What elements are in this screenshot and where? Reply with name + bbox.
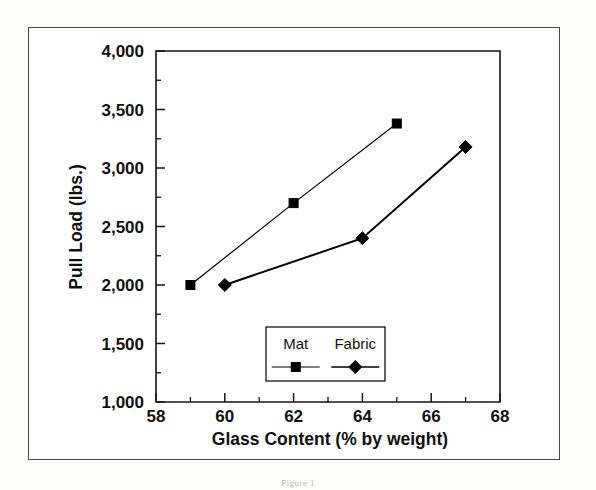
x-tick-label: 64: [353, 407, 372, 426]
figure-area: 1,0001,5002,0002,5003,0003,5004,000 5860…: [0, 0, 596, 490]
page-background: 1,0001,5002,0002,5003,0003,5004,000 5860…: [0, 0, 596, 490]
marker-square: [289, 199, 298, 208]
y-tick-label: 1,500: [101, 335, 144, 354]
y-tick-label: 4,000: [101, 42, 144, 61]
y-tick-label: 2,000: [101, 276, 144, 295]
x-tick-label: 62: [284, 407, 303, 426]
legend-label-mat: Mat: [283, 335, 309, 352]
y-axis-major-ticks: [156, 51, 165, 402]
y-tick-label: 1,000: [101, 393, 144, 412]
y-axis-title: Pull Load (lbs.): [66, 164, 86, 289]
series-mat: [186, 119, 401, 289]
y-tick-label: 2,500: [101, 218, 144, 237]
x-axis-title: Glass Content (% by weight): [212, 429, 448, 449]
series-line-fabric: [225, 147, 466, 285]
marker-square: [186, 281, 195, 290]
legend-label-fabric: Fabric: [334, 335, 376, 352]
marker-square: [291, 363, 300, 372]
x-tick-label: 66: [422, 407, 441, 426]
y-axis-tick-labels: 1,0001,5002,0002,5003,0003,5004,000: [101, 42, 144, 412]
x-tick-label: 68: [491, 407, 510, 426]
marker-square: [392, 119, 401, 128]
pull-load-vs-glass-content-chart: 1,0001,5002,0002,5003,0003,5004,000 5860…: [0, 0, 596, 490]
x-axis-tick-labels: 586062646668: [147, 407, 510, 426]
y-tick-label: 3,000: [101, 159, 144, 178]
chart-legend: MatFabric: [266, 327, 385, 381]
marker-diamond: [218, 279, 231, 292]
data-series-layer: [186, 119, 472, 291]
y-tick-label: 3,500: [101, 101, 144, 120]
x-tick-label: 60: [215, 407, 234, 426]
figure-caption: Figure 1: [0, 478, 596, 488]
x-tick-label: 58: [147, 407, 166, 426]
